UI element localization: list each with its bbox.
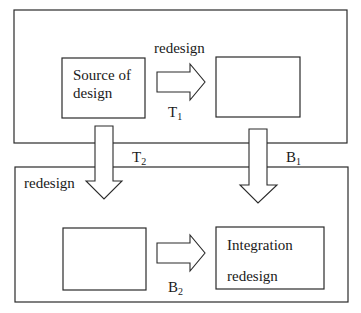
top-target-box	[216, 57, 300, 117]
integration-box-line2: redesign	[227, 268, 278, 284]
source-box-line2: design	[73, 85, 113, 101]
top-redesign-label: redesign	[154, 40, 205, 56]
t1-label: T1	[168, 104, 182, 122]
right-arrow-icon	[157, 235, 205, 271]
integration-box-line1: Integration	[227, 237, 293, 253]
t2-label: T2	[132, 149, 146, 167]
design-flow-diagram: Source of design redesign T1 T2 redesign…	[0, 0, 361, 313]
b2-label: B2	[168, 279, 183, 297]
right-arrow-icon	[157, 64, 205, 100]
left-redesign-label: redesign	[24, 175, 75, 191]
b1-label: B1	[286, 149, 301, 167]
bottom-left-box	[63, 228, 146, 290]
source-box-line1: Source of	[73, 67, 131, 83]
down-arrow-icon	[86, 126, 122, 199]
down-arrow-icon	[240, 129, 277, 203]
